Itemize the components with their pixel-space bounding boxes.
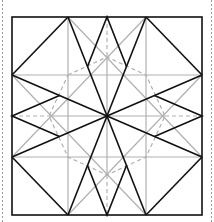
diagram-canvas — [0, 0, 214, 222]
crease-pattern-diagram — [0, 0, 214, 222]
